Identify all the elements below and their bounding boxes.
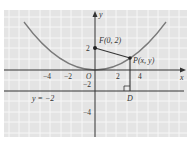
parabola-figure: y x −4 −2 O 2 4 2 −2 −4 F(0, 2) P(x, y) … <box>0 0 191 148</box>
x-tick-neg2: −2 <box>64 72 72 81</box>
focus-point <box>93 46 97 50</box>
x-tick-neg4: −4 <box>43 72 51 81</box>
point-p-label: P(x, y) <box>132 56 155 65</box>
focus-label: F(0, 2) <box>98 36 122 45</box>
x-tick-2: 2 <box>116 72 120 81</box>
y-axis-label: y <box>98 10 103 19</box>
point-d-label: D <box>126 94 133 103</box>
y-tick-2: 2 <box>86 44 90 53</box>
x-tick-4: 4 <box>138 72 142 81</box>
x-axis-label: x <box>179 73 184 82</box>
y-tick-neg4: −4 <box>83 108 91 117</box>
point-p <box>128 56 132 60</box>
directrix-label: y = −2 <box>31 94 54 103</box>
y-tick-neg2: −2 <box>83 80 91 89</box>
